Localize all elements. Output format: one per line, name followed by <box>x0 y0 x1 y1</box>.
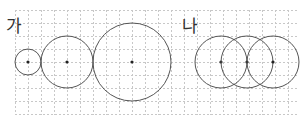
center-point <box>271 60 274 63</box>
panel-label-ga: 가 <box>6 18 22 35</box>
center-point <box>65 60 68 63</box>
center-point <box>130 60 133 63</box>
diagram-canvas: 가 나 <box>0 0 306 124</box>
circle-diagram <box>0 0 306 124</box>
dashed-grid <box>15 10 297 115</box>
panel-label-na: 나 <box>182 18 198 35</box>
center-point <box>26 60 29 63</box>
